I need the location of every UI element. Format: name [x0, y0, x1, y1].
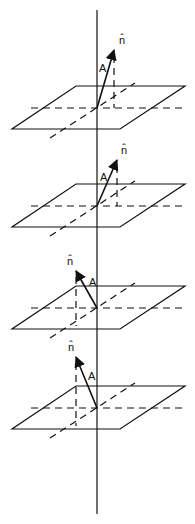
dashed-y-axis [50, 283, 135, 338]
plane-group-4: n̂A [12, 340, 185, 438]
dashed-y-axis [50, 383, 135, 438]
plane-group-3: n̂A [12, 254, 185, 338]
vector-label: A [88, 370, 96, 382]
rotating-vector-diagram: n̂An̂An̂An̂A [0, 0, 195, 524]
normal-label: n̂ [119, 33, 125, 46]
normal-label: n̂ [121, 143, 127, 156]
plane-group-2: n̂A [12, 143, 185, 236]
normal-label: n̂ [67, 254, 73, 267]
vector-label: A [100, 171, 108, 183]
normal-label: n̂ [68, 340, 74, 353]
vector-label: A [99, 62, 107, 74]
plane-group-1: n̂A [12, 33, 185, 138]
dashed-y-axis [50, 83, 135, 138]
vector-a-arrow [97, 160, 117, 206]
vector-label: A [89, 276, 97, 288]
vector-a-arrow [97, 50, 114, 108]
dashed-y-axis [50, 181, 135, 236]
vector-a-arrow [76, 357, 97, 408]
